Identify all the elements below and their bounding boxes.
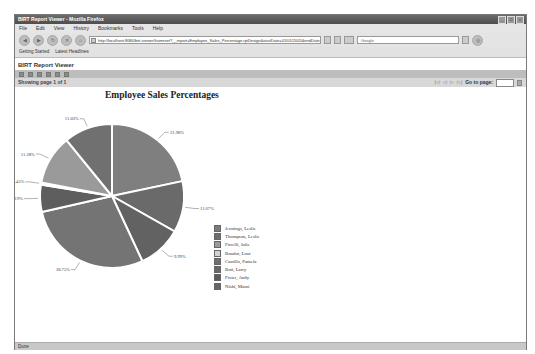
- forward-icon[interactable]: ▶: [33, 35, 44, 46]
- pie-slices: [40, 124, 184, 268]
- print-server-icon[interactable]: [64, 72, 69, 77]
- next-page-icon[interactable]: ▷: [450, 78, 454, 87]
- menu-history[interactable]: History: [73, 24, 89, 33]
- reload-icon[interactable]: ↻: [47, 35, 58, 46]
- pie-chart: 21.98%11.67%9.99%28.75%6.19%0.45%11.28%1…: [15, 87, 526, 341]
- legend-item: Bondur, Loui: [214, 249, 260, 257]
- menu-help[interactable]: Help: [153, 24, 163, 33]
- bookmark-latest-headlines[interactable]: Latest Headlines: [55, 47, 89, 57]
- page-navigation-bar: Showing page 1 of 1 |◁ ◁ ▷ ▷| Go to page…: [15, 78, 526, 87]
- minimize-button[interactable]: _: [498, 16, 506, 24]
- report-area: Employee Sales Percentages 21.98%11.67%9…: [15, 87, 526, 341]
- bookmark-getting-started[interactable]: Getting Started: [19, 47, 49, 57]
- maximize-button[interactable]: □: [507, 16, 515, 24]
- slice-label: 6.19%: [15, 196, 23, 201]
- search-input[interactable]: Google: [357, 36, 459, 44]
- bookmarks-toolbar: Getting Started Latest Headlines: [15, 47, 526, 58]
- legend-item: Firrelli, Julie: [214, 241, 260, 249]
- menu-view[interactable]: View: [54, 24, 65, 33]
- search-engine-icon[interactable]: [344, 36, 354, 44]
- menu-bar: File Edit View History Bookmarks Tools H…: [15, 24, 526, 33]
- legend-swatch: [214, 241, 221, 248]
- navigation-toolbar: ◀ ▶ ↻ ✕ ⌂ http://localhost:8080/birt-vie…: [15, 33, 526, 47]
- slice-label: 21.98%: [170, 130, 184, 135]
- throbber-icon: ◎: [472, 35, 483, 46]
- title-bar: BIRT Report Viewer - Mozilla Firefox _ □…: [15, 15, 526, 24]
- legend-swatch: [214, 266, 221, 273]
- legend-item: Castillo, Pamela: [214, 257, 260, 265]
- page-info: Showing page 1 of 1: [18, 79, 66, 85]
- parameters-icon[interactable]: [28, 72, 33, 77]
- first-page-icon[interactable]: |◁: [435, 78, 440, 87]
- stop-icon[interactable]: ✕: [61, 35, 72, 46]
- slice-label: 28.75%: [56, 267, 70, 272]
- legend-swatch: [214, 225, 221, 232]
- legend-swatch: [214, 274, 221, 281]
- legend-swatch: [214, 250, 221, 257]
- goto-page-button[interactable]: [517, 80, 522, 86]
- url-dropdown-icon[interactable]: [324, 36, 331, 44]
- menu-file[interactable]: File: [19, 24, 27, 33]
- legend-swatch: [214, 283, 221, 290]
- go-icon[interactable]: [334, 36, 341, 44]
- chart-legend: Jennings, Leslie Thompson, Leslie Firrel…: [214, 224, 260, 290]
- viewer-title: BIRT Report Viewer: [15, 58, 526, 70]
- viewer-toolbar: [15, 70, 526, 78]
- prev-page-icon[interactable]: ◁: [443, 78, 447, 87]
- last-page-icon[interactable]: ▷|: [457, 78, 462, 87]
- goto-page-input[interactable]: [496, 79, 514, 87]
- search-icon[interactable]: [462, 36, 469, 44]
- home-icon[interactable]: ⌂: [75, 35, 86, 46]
- legend-item: Jennings, Leslie: [214, 224, 260, 232]
- slice-label: 11.03%: [65, 116, 79, 121]
- legend-item: Nishi, Mami: [214, 282, 260, 290]
- export-data-icon[interactable]: [37, 72, 42, 77]
- goto-page-label: Go to page:: [465, 78, 493, 87]
- legend-swatch: [214, 233, 221, 240]
- slice-label: 11.28%: [21, 152, 35, 157]
- close-button[interactable]: ×: [516, 16, 524, 24]
- export-report-icon[interactable]: [46, 72, 51, 77]
- browser-window: BIRT Report Viewer - Mozilla Firefox _ □…: [14, 14, 527, 350]
- slice-label: 9.99%: [174, 254, 186, 259]
- status-bar: Done: [15, 342, 526, 350]
- url-input[interactable]: http://localhost:8080/birt-viewer/frames…: [89, 36, 321, 44]
- legend-item: Bott, Larry: [214, 265, 260, 273]
- page-content: BIRT Report Viewer Showing page 1 of 1 |…: [15, 58, 526, 342]
- legend-item: Thompson, Leslie: [214, 232, 260, 240]
- toc-icon[interactable]: [19, 72, 24, 77]
- slice-label: 11.67%: [200, 206, 214, 211]
- menu-tools[interactable]: Tools: [132, 24, 144, 33]
- slice-label: 0.45%: [15, 179, 24, 184]
- legend-swatch: [214, 258, 221, 265]
- legend-item: Fixter, Andy: [214, 274, 260, 282]
- print-icon[interactable]: [55, 72, 60, 77]
- menu-bookmarks[interactable]: Bookmarks: [98, 24, 123, 33]
- window-title: BIRT Report Viewer - Mozilla Firefox: [18, 16, 104, 22]
- back-icon[interactable]: ◀: [19, 35, 30, 46]
- menu-edit[interactable]: Edit: [36, 24, 45, 33]
